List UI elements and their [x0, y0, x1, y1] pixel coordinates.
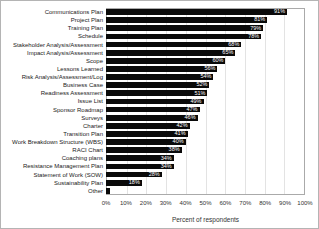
bar-track: 42% [106, 122, 305, 130]
bar-value-label: 28% [149, 172, 162, 178]
bar: 28% [106, 172, 162, 178]
bar-row: Sponsor Roadmap47% [3, 106, 305, 114]
x-tick-label: 90% [279, 200, 291, 206]
bar-value-label: 52% [196, 82, 209, 88]
bar-value-label: 56% [204, 66, 217, 72]
bar-row: Impact Analysis/Assessment65% [3, 49, 305, 57]
bar-value-label: 34% [161, 164, 174, 170]
bar-row: Schedule78% [3, 32, 305, 40]
bar: 65% [106, 50, 235, 56]
category-label: Communications Plan [3, 9, 106, 15]
bar: 81% [106, 17, 267, 23]
bar-row: Project Plan81% [3, 16, 305, 24]
category-label: Project Plan [3, 17, 106, 23]
bar: 49% [106, 99, 204, 105]
bar-track [106, 187, 305, 195]
bar-value-label: 65% [222, 50, 235, 56]
x-tick-label: 20% [140, 200, 152, 206]
bar: 79% [106, 25, 263, 31]
bar: 40% [106, 139, 186, 145]
bar-value-label: 79% [250, 26, 263, 32]
bar-value-label: 91% [274, 9, 287, 15]
bar-row: Sustainability Plan18% [3, 179, 305, 187]
bar: 38% [106, 147, 182, 153]
bar: 51% [106, 90, 207, 96]
category-label: Charter [3, 123, 106, 129]
bar-row: Resistance Management Plan34% [3, 162, 305, 170]
bar-row: Scope60% [3, 57, 305, 65]
bar-value-label: 60% [212, 58, 225, 64]
category-label: Schedule [3, 33, 106, 39]
category-label: Stakeholder Analysis/Assessment [3, 42, 106, 48]
bar-row: Work Breakdown Structure (WBS)40% [3, 138, 305, 146]
bar-track: 91% [106, 8, 305, 16]
category-label: Resistance Management Plan [3, 163, 106, 169]
bar-track: 38% [106, 146, 305, 154]
bar-track: 34% [106, 154, 305, 162]
x-tick-label: 70% [239, 200, 251, 206]
category-label: Sponsor Roadmap [3, 107, 106, 113]
bar [106, 188, 110, 194]
bar-value-label: 42% [177, 123, 190, 129]
bar-track: 81% [106, 16, 305, 24]
bar-chart-figure: Communications Plan91%Project Plan81%Tra… [0, 0, 319, 229]
bar-row: Coaching plans34% [3, 154, 305, 162]
bar-value-label: 40% [173, 139, 186, 145]
bar: 52% [106, 82, 209, 88]
bar: 78% [106, 34, 261, 40]
bar-track: 78% [106, 32, 305, 40]
category-label: Business Case [3, 82, 106, 88]
bar-row: Business Case52% [3, 81, 305, 89]
bar-row: Statement of Work (SOW)28% [3, 171, 305, 179]
x-tick-label: 10% [120, 200, 132, 206]
bar: 47% [106, 107, 200, 113]
bar-track: 56% [106, 65, 305, 73]
bar-row: Other [3, 187, 305, 195]
category-label: Scope [3, 58, 106, 64]
category-label: Transition Plan [3, 131, 106, 137]
bar-row: Stakeholder Analysis/Assessment68% [3, 41, 305, 49]
category-label: Issue List [3, 98, 106, 104]
bar-row: Issue List49% [3, 97, 305, 105]
category-label: Sustainability Plan [3, 180, 106, 186]
category-label: Work Breakdown Structure (WBS) [3, 139, 106, 145]
category-label: Risk Analysis/Assessment/Log [3, 74, 106, 80]
bar-value-label: 46% [185, 115, 198, 121]
bar-track: 60% [106, 57, 305, 65]
category-label: Statement of Work (SOW) [3, 172, 106, 178]
bar-row: RACI Chart38% [3, 146, 305, 154]
category-label: Other [3, 188, 106, 194]
category-label: Impact Analysis/Assessment [3, 50, 106, 56]
bar: 34% [106, 164, 174, 170]
category-label: Surveys [3, 115, 106, 121]
bar: 18% [106, 180, 142, 186]
bar-value-label: 49% [190, 99, 203, 105]
bar-value-label: 68% [228, 42, 241, 48]
x-tick-label: 0% [102, 200, 111, 206]
bar: 34% [106, 155, 174, 161]
bar-value-label: 78% [248, 34, 261, 40]
bar-value-label: 54% [200, 74, 213, 80]
bar-rows: Communications Plan91%Project Plan81%Tra… [3, 8, 305, 195]
bar: 56% [106, 66, 217, 72]
bar: 54% [106, 74, 213, 80]
x-tick-label: 100% [297, 200, 312, 206]
category-label: Coaching plans [3, 155, 106, 161]
bar-track: 51% [106, 89, 305, 97]
bar-track: 18% [106, 179, 305, 187]
bar-track: 54% [106, 73, 305, 81]
bar-value-label: 38% [169, 147, 182, 153]
bar: 41% [106, 131, 188, 137]
x-tick-label: 60% [219, 200, 231, 206]
x-axis-ticks: 0%10%20%30%40%50%60%70%80%90%100% [106, 198, 305, 207]
bar-value-label: 47% [187, 107, 200, 113]
bar-track: 28% [106, 171, 305, 179]
bar-track: 52% [106, 81, 305, 89]
bar-row: Communications Plan91% [3, 8, 305, 16]
bar-track: 68% [106, 41, 305, 49]
bar-row: Risk Analysis/Assessment/Log54% [3, 73, 305, 81]
bar-row: Charter42% [3, 122, 305, 130]
bar-track: 79% [106, 24, 305, 32]
bar-track: 47% [106, 106, 305, 114]
bar-track: 49% [106, 97, 305, 105]
